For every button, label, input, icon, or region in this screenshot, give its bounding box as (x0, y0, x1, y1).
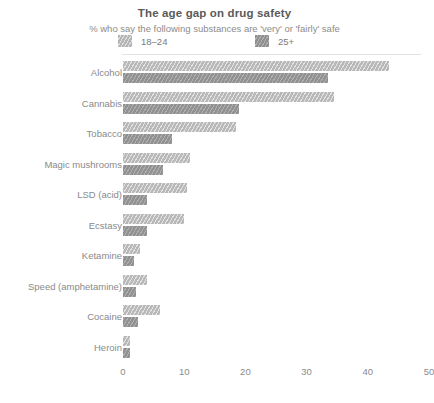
bar-group-row: Tobacco (0, 118, 429, 149)
legend-divider (122, 54, 421, 55)
bar-18-24-cocaine[interactable] (123, 305, 160, 315)
bar-25-plus-lsd[interactable] (123, 195, 147, 205)
x-tick-10: 10 (179, 366, 190, 377)
category-label-cannabis: Cannabis (82, 97, 122, 108)
plot-area: Alcohol Cannabis Tobacco Magic mushrooms (0, 57, 429, 362)
bar-group-row: LSD (acid) (0, 179, 429, 210)
category-label-cocaine: Cocaine (87, 311, 122, 322)
bar-group-row: Ketamine (0, 240, 429, 271)
bar-pair (123, 301, 429, 332)
x-tick-20: 20 (240, 366, 251, 377)
legend-label-18-24: 18–24 (141, 36, 167, 47)
bar-25-plus-speed[interactable] (123, 287, 136, 297)
legend-label-25-plus: 25+ (278, 36, 294, 47)
bar-pair (123, 88, 429, 119)
bar-pair (123, 210, 429, 241)
bar-25-plus-heroin[interactable] (123, 348, 130, 358)
bar-pair (123, 57, 429, 88)
bar-18-24-tobacco[interactable] (123, 122, 236, 132)
legend-swatch-icon-18-24 (118, 35, 132, 47)
legend-item-18-24[interactable]: 18–24 (118, 34, 167, 48)
chart-title: The age gap on drug safety (0, 6, 429, 20)
x-tick-50: 50 (424, 366, 434, 377)
bar-25-plus-ketamine[interactable] (123, 256, 134, 266)
chart-legend: 18–24 25+ (118, 34, 378, 48)
bar-18-24-lsd[interactable] (123, 183, 187, 193)
bar-pair (123, 240, 429, 271)
x-tick-0: 0 (120, 366, 125, 377)
chart-header: The age gap on drug safety % who say the… (0, 0, 429, 35)
bar-group-row: Magic mushrooms (0, 149, 429, 180)
bar-18-24-speed[interactable] (123, 275, 147, 285)
bar-group-row: Speed (amphetamine) (0, 271, 429, 302)
bar-25-plus-tobacco[interactable] (123, 134, 172, 144)
bar-group-row: Heroin (0, 332, 429, 363)
legend-item-25-plus[interactable]: 25+ (255, 34, 294, 48)
category-label-heroin: Heroin (94, 341, 122, 352)
category-label-ketamine: Ketamine (82, 250, 122, 261)
bar-25-plus-magic-mushrooms[interactable] (123, 165, 163, 175)
bar-group-row: Ecstasy (0, 210, 429, 241)
bar-18-24-ketamine[interactable] (123, 244, 140, 254)
bar-25-plus-cannabis[interactable] (123, 104, 239, 114)
bar-pair (123, 118, 429, 149)
bar-pair (123, 179, 429, 210)
bar-group-row: Alcohol (0, 57, 429, 88)
category-label-speed: Speed (amphetamine) (28, 280, 122, 291)
x-tick-30: 30 (301, 366, 312, 377)
x-axis: 0 10 20 30 40 50 (123, 366, 429, 386)
bar-18-24-ecstasy[interactable] (123, 214, 184, 224)
bar-pair (123, 332, 429, 363)
category-label-lsd: LSD (acid) (77, 189, 122, 200)
bar-25-plus-cocaine[interactable] (123, 317, 138, 327)
bar-18-24-magic-mushrooms[interactable] (123, 153, 190, 163)
category-label-alcohol: Alcohol (91, 67, 122, 78)
category-label-tobacco: Tobacco (87, 128, 122, 139)
bar-pair (123, 149, 429, 180)
legend-swatch-icon-25-plus (255, 35, 269, 47)
bar-18-24-cannabis[interactable] (123, 92, 334, 102)
bar-25-plus-alcohol[interactable] (123, 73, 328, 83)
category-label-ecstasy: Ecstasy (89, 219, 122, 230)
bar-25-plus-ecstasy[interactable] (123, 226, 147, 236)
bar-18-24-alcohol[interactable] (123, 61, 389, 71)
bar-pair (123, 271, 429, 302)
x-tick-40: 40 (363, 366, 374, 377)
category-label-magic-mushrooms: Magic mushrooms (44, 158, 122, 169)
bar-18-24-heroin[interactable] (123, 336, 130, 346)
bar-group-row: Cannabis (0, 88, 429, 119)
bar-group-row: Cocaine (0, 301, 429, 332)
